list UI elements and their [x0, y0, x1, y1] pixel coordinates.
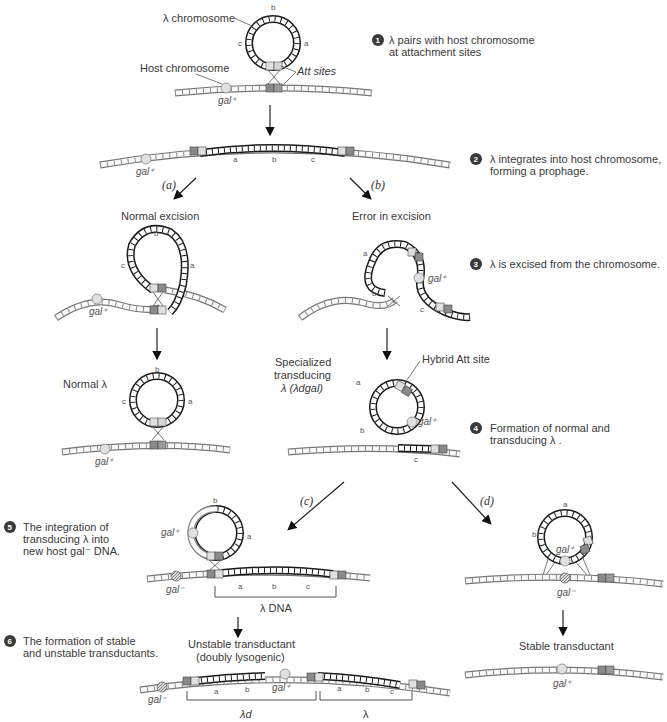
arrow-path-a	[175, 178, 196, 198]
stage-1-pairing: b c a λ chromosome Host chromosome Att s…	[140, 3, 372, 106]
att-site-lambda-right	[274, 62, 282, 70]
step-text-line1: Formation of normal and	[490, 422, 610, 434]
lambda-dna-label: λ DNA	[260, 602, 292, 614]
step-5: 5 The integration of transducing λ into …	[4, 521, 120, 557]
label-a: a	[363, 249, 368, 258]
label-b: b	[272, 155, 277, 164]
label-b: b	[272, 582, 277, 591]
step-text-line1: The formation of stable	[23, 635, 136, 647]
path-d-label: (d)	[480, 494, 494, 508]
step-6: 6 The formation of stable and unstable t…	[4, 635, 158, 659]
arrow-path-b	[350, 178, 370, 198]
gal-minus-label: gal⁻	[166, 584, 185, 595]
label-c: c	[122, 397, 126, 406]
label-c: c	[414, 455, 418, 464]
label-a: a	[247, 532, 252, 541]
att-sites-label: Att sites	[296, 65, 337, 77]
path-b-label: (b)	[371, 178, 385, 192]
step-3: 3 λ is excised from the chromosome.	[470, 258, 660, 270]
lambda-transduction-diagram: b c a λ chromosome Host chromosome Att s…	[0, 0, 667, 722]
normal-lambda-label: Normal λ	[63, 378, 108, 390]
step-number: 2	[474, 155, 479, 164]
att-site-host-right	[274, 84, 282, 92]
stage-2-prophage: a b c gal⁺	[100, 147, 450, 177]
stage-4-normal-lambda: b c a Normal λ gal⁺	[62, 365, 230, 467]
step-text-line2: transducing λ into	[23, 533, 109, 545]
step-text-line2: transducing λ .	[490, 434, 562, 446]
label-a: a	[356, 378, 361, 387]
unstable-label-2: (doubly lysogenic)	[196, 651, 285, 663]
gal-minus-label: gal⁻	[557, 587, 576, 598]
specialized-label-1: Specialized	[275, 356, 331, 368]
stage-6-unstable-transductant: Unstable transductant (doubly lysogenic)…	[140, 638, 450, 720]
gal-plus-label: gal⁺	[161, 527, 180, 538]
step-text-line1: λ is excised from the chromosome.	[490, 258, 660, 270]
gal-plus-label: gal⁺	[418, 416, 437, 427]
step-text-line1: The integration of	[23, 521, 110, 533]
step-2: 2 λ integrates into host chromosome, for…	[470, 153, 661, 177]
gal-minus-label: gal⁻	[148, 694, 167, 705]
step-number: 5	[8, 523, 13, 532]
gal-plus-label: gal⁺	[89, 306, 108, 317]
gal-plus-label: gal⁺	[95, 456, 114, 467]
host-chromosome-label: Host chromosome	[140, 62, 229, 74]
gal-plus-label: gal⁺	[218, 95, 237, 106]
label-c: c	[306, 582, 310, 591]
label-b: b	[155, 365, 160, 374]
step-number: 3	[474, 260, 479, 269]
att-site-lambda-left	[266, 62, 274, 70]
step-number: 1	[376, 36, 381, 45]
stage-5-integration: b a a b c gal⁺ gal⁻ λ DNA	[147, 496, 370, 614]
label-b: b	[213, 496, 218, 505]
label-c: c	[311, 155, 315, 164]
gal-plus-label: gal⁺	[428, 273, 447, 284]
label-b: b	[365, 685, 370, 694]
label-a: a	[337, 684, 342, 693]
arrow-path-c	[289, 482, 344, 529]
label-c: c	[238, 39, 242, 48]
label-b: b	[360, 426, 365, 435]
stage-6-stable-transductant: Stable transductant gal⁺	[465, 640, 663, 689]
hybrid-att-label: Hybrid Att site	[422, 353, 490, 365]
step-text-line2: at attachment sites	[389, 46, 482, 58]
gal-plus-label: gal⁺	[556, 544, 575, 555]
lambda-label: λ	[363, 708, 369, 720]
step-text-line3: new host gal⁻ DNA.	[23, 545, 120, 557]
error-in-excision-label: Error in excision	[352, 210, 431, 222]
stable-label: Stable transductant	[519, 640, 614, 652]
lambda-d-label: λd	[239, 708, 252, 720]
normal-excision-label: Normal excision	[121, 210, 199, 222]
gal-minus-bead	[171, 571, 181, 581]
step-text-line2: forming a prophage.	[490, 165, 588, 177]
gal-plus-label: gal⁺	[553, 678, 572, 689]
step-number: 6	[8, 637, 13, 646]
label-a: a	[304, 39, 309, 48]
step-text-line2: and unstable transductants.	[23, 647, 158, 659]
label-a: a	[190, 261, 195, 270]
label-b: b	[372, 289, 377, 298]
gal-plus-label: gal⁺	[136, 166, 155, 177]
stage-3-normal-excision: b c a gal⁺	[56, 229, 225, 318]
label-c: c	[121, 261, 125, 270]
label-c: c	[420, 305, 424, 314]
gal-plus-bead	[221, 83, 231, 93]
label-b: b	[154, 229, 159, 238]
step-4: 4 Formation of normal and transducing λ …	[470, 422, 610, 446]
stage-3-error-excision: a b c gal⁺	[300, 244, 470, 318]
specialized-label-2: transducing	[274, 369, 331, 381]
stage-5-path-d: a b gal⁺ gal⁻	[465, 500, 663, 598]
label-c: c	[390, 687, 394, 696]
label-b: b	[245, 685, 250, 694]
step-text-line1: λ pairs with host chromosome	[389, 34, 535, 46]
stage-4-transducing-lambda: a b gal⁺ Specialized transducing λ (λdga…	[274, 353, 490, 464]
label-a: a	[563, 500, 568, 509]
label-b: b	[271, 3, 276, 12]
lambda-d-bracket	[187, 691, 316, 700]
gal-plus-label: gal⁺	[272, 682, 291, 693]
unstable-label-1: Unstable transductant	[188, 638, 295, 650]
step-number: 4	[474, 424, 479, 433]
step-1: 1 λ pairs with host chromosome at attach…	[372, 34, 535, 58]
label-a: a	[188, 397, 193, 406]
label-a: a	[214, 687, 219, 696]
label-a: a	[233, 155, 238, 164]
